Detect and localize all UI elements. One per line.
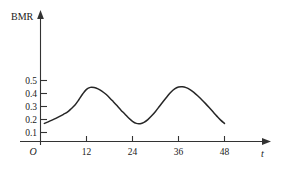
y-axis-group [37,10,44,145]
x-axis-tick-labels: 12 24 36 48 [82,147,230,157]
bmr-chart-figure: 0.5 0.4 0.3 0.2 0.1 12 24 36 48 O BMR t [0,0,284,177]
x-tick-label-48: 48 [220,147,230,157]
x-axis-label: t [261,148,264,159]
y-tick-label-0.2: 0.2 [25,115,37,125]
y-tick-label-0.4: 0.4 [25,89,37,99]
y-axis-label: BMR [11,11,34,22]
x-tick-label-24: 24 [128,147,138,157]
y-axis-ticks [41,81,48,133]
bmr-data-curve [44,87,224,124]
chart-plot-area: 0.5 0.4 0.3 0.2 0.1 12 24 36 48 O BMR t [0,0,284,177]
x-axis-ticks [87,136,225,142]
y-tick-label-0.3: 0.3 [25,102,37,112]
y-axis-tick-labels: 0.5 0.4 0.3 0.2 0.1 [25,76,37,138]
y-axis-arrow-icon [37,10,44,19]
x-tick-label-36: 36 [174,147,184,157]
y-tick-label-0.1: 0.1 [25,128,37,138]
x-axis-arrow-icon [262,138,271,145]
origin-label: O [29,146,36,157]
x-axis-group [20,138,271,145]
y-tick-label-0.5: 0.5 [25,76,37,86]
x-tick-label-12: 12 [82,147,92,157]
